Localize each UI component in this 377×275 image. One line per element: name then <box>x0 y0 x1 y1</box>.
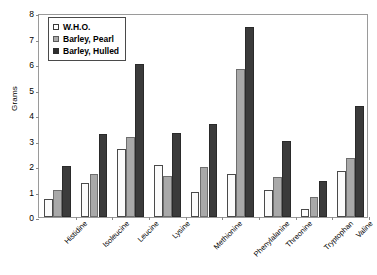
bar <box>62 166 71 217</box>
bar <box>273 177 282 217</box>
x-tick-label: Tryptophan <box>322 219 355 252</box>
bar <box>44 199 53 217</box>
bar-chart: Grams 876543210 W.H.O.Barley, PearlBarle… <box>0 0 377 275</box>
x-tick-label: Phenylalanine <box>251 219 291 259</box>
bar <box>282 141 291 218</box>
bar-group <box>222 15 259 217</box>
legend-label: Barley, Hulled <box>63 47 119 56</box>
legend-label: W.H.O. <box>63 23 90 32</box>
x-tick-label: Leucine <box>135 219 160 244</box>
x-tick-label: Lysine <box>171 219 193 241</box>
x-tick-label: Histidine <box>63 219 90 246</box>
x-axis-tick-labels: HistidineIsoleucineLeucineLysineMethioni… <box>38 219 368 275</box>
bar <box>99 134 108 217</box>
bar <box>163 176 172 217</box>
bar <box>236 69 245 217</box>
bar <box>346 158 355 217</box>
y-tick-mark <box>36 15 39 16</box>
y-tick-label: 2 <box>16 163 34 172</box>
x-tick-label: Isoleucine <box>101 219 131 249</box>
bar <box>245 27 254 217</box>
bar <box>209 124 218 217</box>
legend-label: Barley, Pearl <box>63 35 114 44</box>
bar <box>191 192 200 218</box>
bar <box>319 181 328 217</box>
bar <box>53 190 62 217</box>
bar <box>126 137 135 217</box>
y-tick-label: 6 <box>16 61 34 70</box>
bar-group <box>186 15 223 217</box>
bar <box>172 133 181 217</box>
bar <box>81 183 90 217</box>
y-tick-label: 0 <box>16 214 34 223</box>
legend-item: Barley, Hulled <box>53 45 119 57</box>
x-tick-label: Valine <box>354 219 375 240</box>
bar <box>310 197 319 217</box>
y-tick-mark <box>36 194 39 195</box>
legend-item: W.H.O. <box>53 21 119 33</box>
bar <box>200 167 209 217</box>
y-tick-label: 7 <box>16 35 34 44</box>
y-tick-label: 1 <box>16 188 34 197</box>
bar <box>90 174 99 217</box>
y-tick-mark <box>36 143 39 144</box>
x-tick-label: Methionine <box>212 219 244 251</box>
legend: W.H.O.Barley, PearlBarley, Hulled <box>48 17 126 61</box>
bar-group <box>296 15 333 217</box>
y-tick-label: 8 <box>16 10 34 19</box>
y-tick-mark <box>36 41 39 42</box>
bar-group <box>259 15 296 217</box>
y-tick-mark <box>36 117 39 118</box>
y-tick-mark <box>36 66 39 67</box>
bar-group <box>332 15 369 217</box>
bar <box>154 165 163 217</box>
bar <box>355 106 364 217</box>
legend-swatch-icon <box>53 48 59 54</box>
legend-swatch-icon <box>53 36 59 42</box>
legend-item: Barley, Pearl <box>53 33 119 45</box>
y-axis-tick-labels: 876543210 <box>16 0 34 275</box>
y-tick-label: 4 <box>16 112 34 121</box>
bar <box>227 174 236 217</box>
legend-swatch-icon <box>53 24 59 30</box>
bar-group <box>149 15 186 217</box>
y-tick-mark <box>36 168 39 169</box>
bar <box>264 190 273 217</box>
bar <box>301 209 310 217</box>
y-tick-mark <box>36 92 39 93</box>
y-tick-label: 3 <box>16 137 34 146</box>
bar <box>337 171 346 217</box>
y-tick-label: 5 <box>16 86 34 95</box>
bar <box>135 64 144 217</box>
bar <box>117 149 126 217</box>
